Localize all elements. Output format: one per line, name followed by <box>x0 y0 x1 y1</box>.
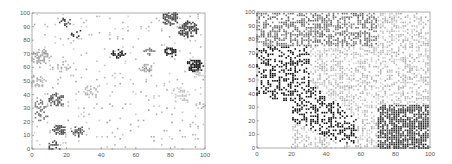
x-tick-label: 60 <box>132 152 139 158</box>
y-tick-label: 80 <box>248 36 255 42</box>
x-tick-label: 40 <box>323 151 330 157</box>
x-tick-label: 20 <box>63 152 70 158</box>
y-tick-label: 60 <box>23 64 30 70</box>
y-tick-label: 10 <box>248 131 255 137</box>
y-tick-label: 70 <box>248 50 255 56</box>
right-scatter-chart: 0204060801000102030405060708090100 <box>226 0 452 164</box>
y-tick-label: 90 <box>23 24 30 30</box>
y-tick-label: 10 <box>23 132 30 138</box>
x-tick-label: 80 <box>392 151 399 157</box>
right-scatter-panel: 0204060801000102030405060708090100 <box>226 0 452 164</box>
y-tick-label: 90 <box>248 23 255 29</box>
y-tick-label: 40 <box>248 91 255 97</box>
y-tick-label: 30 <box>23 105 30 111</box>
scatter-points <box>256 13 429 149</box>
x-tick-label: 20 <box>288 151 295 157</box>
left-scatter-panel: 0204060801000102030405060708090100 <box>0 0 226 164</box>
y-tick-label: 50 <box>248 77 255 83</box>
y-tick-label: 80 <box>23 37 30 43</box>
x-tick-label: 0 <box>30 152 34 158</box>
y-tick-label: 100 <box>20 10 31 16</box>
y-tick-label: 70 <box>23 51 30 57</box>
x-tick-label: 100 <box>425 151 436 157</box>
y-tick-label: 40 <box>23 92 30 98</box>
y-tick-label: 50 <box>23 78 30 84</box>
x-tick-label: 100 <box>200 152 211 158</box>
x-tick-label: 60 <box>357 151 364 157</box>
x-tick-label: 0 <box>255 151 259 157</box>
y-tick-label: 20 <box>23 119 30 125</box>
left-scatter-chart: 0204060801000102030405060708090100 <box>0 0 226 164</box>
x-tick-label: 40 <box>98 152 105 158</box>
plot-frame <box>257 12 430 148</box>
y-tick-label: 20 <box>248 118 255 124</box>
y-tick-label: 100 <box>245 9 256 15</box>
y-tick-label: 60 <box>248 63 255 69</box>
x-tick-label: 80 <box>167 152 174 158</box>
scatter-points <box>31 12 206 150</box>
y-tick-label: 30 <box>248 104 255 110</box>
